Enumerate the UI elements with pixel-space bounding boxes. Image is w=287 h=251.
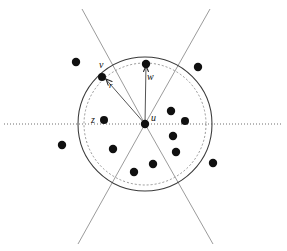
label-r: r (109, 81, 113, 90)
point-inside-6 (130, 168, 138, 176)
point-inside-2 (181, 117, 189, 125)
diagram-svg (0, 0, 287, 251)
point-z (100, 116, 108, 124)
label-u: u (151, 113, 156, 123)
point-outside-4 (209, 159, 217, 167)
point-inside-7 (109, 145, 117, 153)
point-outside-2 (194, 63, 202, 71)
segment-u-to-w (145, 64, 146, 124)
label-w: w (147, 72, 154, 82)
radius-segments-group (103, 64, 146, 124)
point-outside-1 (72, 58, 80, 66)
label-v: v (99, 60, 103, 70)
figure-canvas: uvwzr (0, 0, 287, 251)
cone-upper-left (82, 9, 145, 124)
point-v (98, 73, 106, 81)
point-w (142, 60, 150, 68)
point-inside-1 (167, 107, 175, 115)
point-inside-4 (172, 148, 180, 156)
data-points-group (58, 58, 217, 176)
point-outside-3 (58, 141, 66, 149)
point-u-center (141, 120, 149, 128)
point-inside-5 (149, 160, 157, 168)
point-inside-3 (169, 132, 177, 140)
label-z: z (91, 115, 95, 125)
